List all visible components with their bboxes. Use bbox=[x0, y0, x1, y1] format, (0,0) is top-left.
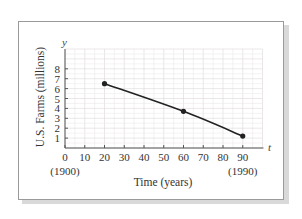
x-tick-label: 0 bbox=[62, 151, 68, 163]
x-tick-label: 50 bbox=[158, 151, 170, 163]
x-tick-label: 20 bbox=[99, 151, 111, 163]
chart: 0102030405060708090(1900)(1990)12345678 … bbox=[0, 0, 302, 219]
x-tick-label: 30 bbox=[119, 151, 131, 163]
y-variable-label: y bbox=[61, 36, 67, 48]
x-sub-label: (1990) bbox=[228, 165, 258, 178]
grid bbox=[65, 49, 263, 148]
x-tick-label: 40 bbox=[139, 151, 151, 163]
x-axis-title: Time (years) bbox=[134, 176, 193, 189]
x-sub-label: (1900) bbox=[50, 165, 80, 178]
data-point bbox=[181, 109, 186, 114]
data-point bbox=[102, 81, 107, 86]
x-variable-label: t bbox=[268, 141, 272, 153]
y-axis-title: U.S. Farms (millions) bbox=[34, 47, 47, 147]
data-point bbox=[240, 134, 245, 139]
x-tick-label: 80 bbox=[218, 151, 230, 163]
x-tick-label: 10 bbox=[79, 151, 91, 163]
x-tick-label: 60 bbox=[178, 151, 190, 163]
x-tick-label: 90 bbox=[237, 151, 249, 163]
y-tick-label: 8 bbox=[55, 63, 61, 75]
x-tick-label: 70 bbox=[198, 151, 210, 163]
